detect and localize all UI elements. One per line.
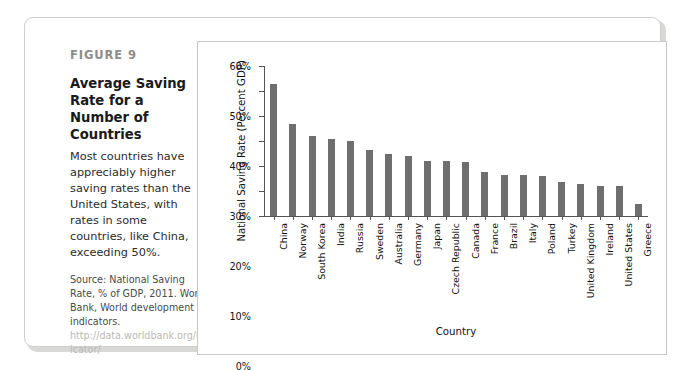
x-axis-tick-label: Sweden <box>374 223 385 260</box>
x-axis-tick <box>542 216 543 220</box>
x-axis-tick-label: India <box>335 223 346 246</box>
x-axis-tick-label: France <box>489 223 500 254</box>
x-axis-tick-label: Russia <box>354 223 365 253</box>
bar[interactable] <box>328 139 335 217</box>
x-axis-tick <box>562 216 563 220</box>
x-axis-tick <box>312 216 313 220</box>
figure-description: Most countries have appreciably higher s… <box>70 149 206 261</box>
bar[interactable] <box>577 184 584 217</box>
y-axis-tick-label: 50% <box>229 111 251 122</box>
x-axis-tick <box>331 216 332 220</box>
bar[interactable] <box>405 156 412 216</box>
bar[interactable] <box>309 136 316 216</box>
bar[interactable] <box>347 141 354 216</box>
x-axis-tick <box>466 216 467 220</box>
x-axis-tick-label: United States <box>623 223 634 286</box>
plot-area: 0%10%20%30%40%50%60% ChinaNorwaySouth Ko… <box>264 66 648 216</box>
bar[interactable] <box>289 124 296 217</box>
x-axis-tick-label: Poland <box>546 223 557 254</box>
y-axis-tick-label: 20% <box>229 261 251 272</box>
x-axis-tick-label: Norway <box>297 223 308 259</box>
source-url[interactable]: http://data.worldbank.org/indicator/ <box>70 329 212 357</box>
x-axis-tick <box>389 216 390 220</box>
x-axis-tick <box>408 216 409 220</box>
x-axis-tick <box>370 216 371 220</box>
y-axis-tick-label: 40% <box>229 161 251 172</box>
figure-box: FIGURE 9 Average Saving Rate for a Numbe… <box>24 17 661 347</box>
y-axis-tick: 10% <box>259 191 264 192</box>
bar[interactable] <box>501 175 508 216</box>
y-axis-tick: 60% <box>259 66 264 67</box>
y-axis-tick: 50% <box>259 91 264 92</box>
bar[interactable] <box>520 175 527 216</box>
x-axis-tick <box>504 216 505 220</box>
x-axis-tick <box>293 216 294 220</box>
y-axis-tick-label: 0% <box>236 361 251 370</box>
bar[interactable] <box>385 154 392 217</box>
bar[interactable] <box>616 186 623 216</box>
x-axis-tick-label: Brazil <box>508 223 519 249</box>
x-axis-tick <box>581 216 582 220</box>
x-axis-tick-label: Greece <box>642 223 653 256</box>
x-axis-tick <box>485 216 486 220</box>
figure-number-label: FIGURE 9 <box>70 48 206 62</box>
x-axis-tick-label: Italy <box>527 223 538 243</box>
x-axis-tick-label: Ireland <box>604 223 615 255</box>
x-axis-tick <box>523 216 524 220</box>
x-axis-tick <box>350 216 351 220</box>
bar[interactable] <box>597 186 604 216</box>
bar[interactable] <box>366 150 373 216</box>
y-axis-tick: 40% <box>259 116 264 117</box>
source-block: Source: National Saving Rate, % of GDP, … <box>70 273 212 356</box>
x-axis-tick-label: Germany <box>412 223 423 266</box>
figure-page: FIGURE 9 Average Saving Rate for a Numbe… <box>0 0 679 370</box>
y-axis-tick-label: 10% <box>229 311 251 322</box>
bar[interactable] <box>462 162 469 216</box>
y-axis-tick: 30% <box>259 141 264 142</box>
y-axis-tick-label: 60% <box>229 61 251 72</box>
x-axis-tick-label: China <box>278 223 289 250</box>
y-axis-line <box>264 66 265 216</box>
x-axis-tick-label: United Kingdom <box>585 223 596 298</box>
x-axis-tick <box>427 216 428 220</box>
x-axis-tick <box>600 216 601 220</box>
y-axis-tick: 0% <box>259 216 264 217</box>
x-axis-tick <box>619 216 620 220</box>
x-axis-tick-label: Canada <box>470 223 481 259</box>
x-axis-tick-label: Czech Republic <box>450 223 461 294</box>
x-axis-line <box>264 216 648 217</box>
x-axis-tick-label: Australia <box>393 223 404 264</box>
x-axis-title: Country <box>264 326 648 337</box>
bar[interactable] <box>443 161 450 216</box>
x-axis-tick-label: Turkey <box>566 223 577 254</box>
x-axis-tick-label: South Korea <box>316 223 327 280</box>
bar[interactable] <box>270 84 277 217</box>
x-axis-tick <box>446 216 447 220</box>
bar[interactable] <box>635 204 642 217</box>
caption-column: FIGURE 9 Average Saving Rate for a Numbe… <box>70 48 206 353</box>
chart-panel: National Saving Rate (Percent GDP) 0%10%… <box>197 41 667 355</box>
y-axis-tick: 20% <box>259 166 264 167</box>
bar[interactable] <box>424 161 431 216</box>
x-axis-tick <box>638 216 639 220</box>
bar[interactable] <box>481 172 488 216</box>
bar[interactable] <box>558 182 565 216</box>
figure-title: Average Saving Rate for a Number of Coun… <box>70 75 206 143</box>
x-axis-tick <box>274 216 275 220</box>
bar[interactable] <box>539 176 546 216</box>
source-citation: Source: National Saving Rate, % of GDP, … <box>70 273 212 329</box>
y-axis-tick-label: 30% <box>229 211 251 222</box>
x-axis-tick-label: Japan <box>431 223 442 249</box>
